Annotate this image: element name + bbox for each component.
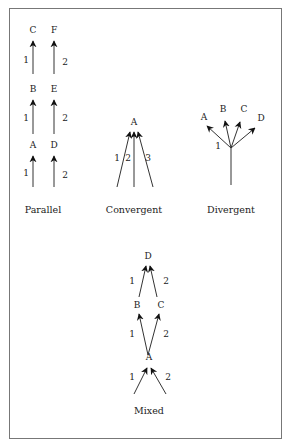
arrow-icon — [134, 368, 147, 394]
parallel-panel: C 1 B 1 A 1 F 2 E 2 D 2 Parallel — [23, 25, 68, 215]
node-d: D — [257, 113, 264, 123]
arrow-label-1: 1 — [215, 141, 221, 151]
convergent-panel: A 1 2 3 Convergent — [106, 117, 162, 215]
arrow-label-2: 2 — [163, 329, 169, 339]
arrow-icon — [151, 368, 166, 394]
causal-paths-diagram: C 1 B 1 A 1 F 2 E 2 D 2 Parallel A 1 2 3… — [0, 0, 289, 445]
arrow-label-1: 1 — [129, 372, 135, 382]
arrow-label-2: 2 — [165, 372, 171, 382]
node-d: D — [144, 251, 151, 261]
mixed-panel: D 1 2 B C 1 2 A 1 2 Mixed — [129, 251, 171, 416]
arrow-icon — [148, 314, 159, 355]
arrow-label-1: 1 — [129, 276, 135, 286]
path-label-2: 2 — [62, 113, 68, 123]
node-b: B — [134, 300, 141, 310]
divergent-panel: A B C D 1 Divergent — [200, 104, 265, 215]
caption-parallel: Parallel — [25, 204, 62, 215]
path-label-1: 1 — [23, 55, 29, 65]
node-e: E — [51, 84, 58, 94]
node-c: C — [241, 104, 248, 114]
node-d: D — [50, 140, 57, 150]
figure-frame — [10, 9, 282, 439]
arrow-label-1: 1 — [114, 153, 120, 163]
caption-mixed: Mixed — [134, 405, 164, 416]
node-a: A — [200, 112, 208, 122]
arrow-icon — [150, 266, 157, 297]
path-label-1: 1 — [23, 168, 29, 178]
node-a: A — [130, 117, 138, 127]
node-b: B — [30, 84, 37, 94]
path-label-1: 1 — [23, 113, 29, 123]
arrow-label-1: 1 — [129, 329, 135, 339]
node-a: A — [145, 352, 153, 362]
path-label-2: 2 — [62, 170, 68, 180]
arrow-icon — [139, 266, 146, 297]
path-label-2: 2 — [62, 57, 68, 67]
node-b: B — [220, 104, 227, 114]
node-f: F — [51, 25, 57, 35]
caption-divergent: Divergent — [207, 204, 255, 215]
arrow-label-2: 2 — [125, 153, 131, 163]
node-c: C — [30, 25, 37, 35]
arrow-label-2: 2 — [163, 276, 169, 286]
node-c: C — [158, 300, 165, 310]
arrow-icon — [139, 314, 148, 355]
arrow-label-3: 3 — [145, 153, 151, 163]
caption-convergent: Convergent — [106, 204, 162, 215]
node-a: A — [29, 140, 37, 150]
